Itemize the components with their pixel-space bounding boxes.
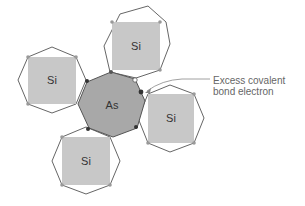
callout-line-1: Excess covalent: [213, 75, 285, 86]
si-atom-right: Si: [138, 85, 204, 152]
electron-dot: [86, 127, 90, 131]
callout-arrowhead: [145, 88, 151, 93]
bond-dot: [158, 68, 162, 72]
bond-dot: [110, 20, 114, 24]
electron-dot: [109, 70, 113, 74]
excess-electron-callout: Excess covalent bond electron: [213, 75, 285, 97]
si-label-right: Si: [166, 112, 176, 124]
bond-dot: [26, 102, 30, 106]
electron-dot: [134, 125, 138, 129]
callout-leader-line: [147, 79, 210, 91]
excess-electron-dot: [139, 90, 144, 95]
electron-dot: [85, 79, 89, 83]
si-label-bottom: Si: [81, 155, 91, 167]
si-atom-left: Si: [18, 47, 86, 113]
bond-dot: [26, 55, 30, 59]
callout-line-2: bond electron: [213, 86, 285, 97]
bond-dot: [108, 183, 112, 187]
si-atom-top: Si: [104, 6, 170, 78]
bond-dot: [192, 92, 196, 96]
bond-dot: [146, 141, 150, 145]
bond-dot: [74, 55, 78, 59]
bond-dot: [60, 135, 64, 139]
as-label: As: [106, 99, 119, 111]
bond-dot: [158, 20, 162, 24]
open-bond-dot: [133, 78, 137, 82]
si-label-left: Si: [47, 74, 57, 86]
si-atom-bottom: Si: [52, 127, 120, 194]
as-atom-center: As: [78, 70, 145, 137]
lattice-diagram: Si Si Si Si As: [0, 0, 305, 206]
bond-dot: [192, 141, 196, 145]
si-label-top: Si: [131, 40, 141, 52]
bond-dot: [60, 183, 64, 187]
